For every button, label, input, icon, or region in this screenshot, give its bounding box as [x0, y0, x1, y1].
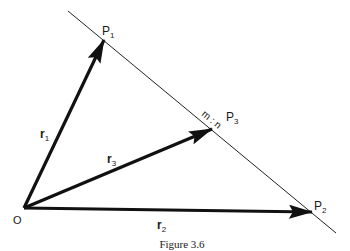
ratio-label: m : n: [200, 108, 224, 131]
vector-r3-arrow: [24, 129, 212, 208]
vector-label-r2: r2: [157, 218, 167, 234]
vector-label-r1: r1: [40, 127, 50, 143]
vector-diagram: P1 P3 P2 O r1 r3 r2 m : n Figure 3.6: [0, 0, 350, 251]
origin-label: O: [13, 214, 22, 226]
vector-r2-arrow: [24, 208, 312, 212]
point-label-p2: P2: [314, 199, 327, 215]
line-p1-p2: [68, 11, 336, 233]
point-label-p3: P3: [226, 110, 239, 126]
vector-label-r3: r3: [107, 152, 117, 168]
point-label-p1: P1: [102, 24, 115, 40]
vector-r1-arrow: [24, 40, 104, 208]
figure-caption: Figure 3.6: [159, 238, 205, 250]
